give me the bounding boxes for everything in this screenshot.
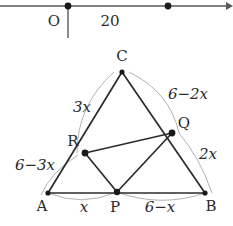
point-C-dot xyxy=(119,69,124,74)
label-AP: x xyxy=(80,198,89,216)
inner-triangle-group xyxy=(85,133,172,192)
segment-RP xyxy=(85,153,117,192)
vertex-label-C: C xyxy=(116,47,127,65)
label-QB: 2x xyxy=(198,145,218,163)
point-P-dot xyxy=(114,189,120,195)
label-PB: 6−x xyxy=(145,198,176,216)
label-AR: 6−3x xyxy=(15,156,56,174)
point-label-Q: Q xyxy=(178,114,190,132)
segment-PQ xyxy=(117,133,172,192)
vertex-label-B: B xyxy=(205,197,216,215)
vertex-label-A: A xyxy=(36,197,48,215)
number-line-group: O 20 xyxy=(0,2,233,38)
segment-QR xyxy=(85,133,172,153)
point-Q-dot xyxy=(169,130,176,137)
label-CQ: 6−2x xyxy=(168,85,209,103)
point-label-P: P xyxy=(110,198,120,216)
point-R-dot xyxy=(82,150,89,157)
twenty-tick-label: 20 xyxy=(100,12,119,30)
origin-dot xyxy=(65,3,72,10)
side-AC xyxy=(48,72,122,193)
point-B-dot xyxy=(202,190,207,195)
point-A-dot xyxy=(45,190,50,195)
twenty-dot xyxy=(165,3,172,10)
geometry-figure: O 20 xyxy=(0,0,233,226)
figure-canvas: O 20 xyxy=(0,0,233,226)
point-label-R: R xyxy=(67,132,79,150)
origin-label: O xyxy=(48,12,60,30)
label-RC: 3x xyxy=(73,98,92,116)
number-line-arrow-icon xyxy=(226,2,233,10)
